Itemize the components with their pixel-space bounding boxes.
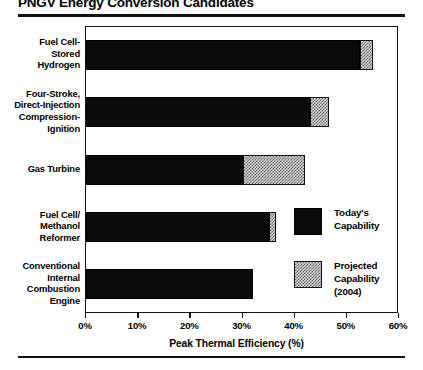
x-axis-tick-label: 50% <box>337 320 356 331</box>
x-axis-tick-mark <box>294 313 295 318</box>
y-axis-category-line: Stored <box>1 48 80 60</box>
title-divider <box>18 14 405 17</box>
y-axis-category-label: Fuel Cell/MethanolReformer <box>1 209 85 244</box>
bar-segment-projected[interactable] <box>360 40 373 70</box>
x-axis-tick-label: 40% <box>284 320 303 331</box>
bar-segment-today[interactable] <box>86 155 243 185</box>
y-axis-category-label: Fuel Cell-StoredHydrogen <box>1 36 85 71</box>
y-axis-labels: Fuel Cell-StoredHydrogenFour-Stroke,Dire… <box>0 26 85 313</box>
y-axis-category-line: Reformer <box>1 232 80 244</box>
bar-row[interactable] <box>86 40 373 70</box>
page-title: PNGV Energy Conversion Candidates <box>18 0 254 10</box>
legend-label: ProjectedCapability(2004) <box>334 259 379 298</box>
y-axis-category-line: Internal <box>1 272 80 284</box>
bar-segment-projected[interactable] <box>269 212 277 242</box>
y-axis-category-line: Fuel Cell/ <box>1 209 80 221</box>
x-axis-tick-mark <box>137 313 138 318</box>
x-axis-tick-label: 60% <box>389 320 408 331</box>
bar-segment-projected[interactable] <box>243 155 306 185</box>
y-axis-category-line: Engine <box>1 295 80 307</box>
bar-segment-today[interactable] <box>86 269 253 299</box>
y-axis-category-label: Gas Turbine <box>1 163 85 175</box>
legend-label-line: Projected <box>334 259 379 272</box>
x-axis-tick-label: 10% <box>128 320 147 331</box>
x-axis-tick-label: 20% <box>180 320 199 331</box>
x-axis-tick-label: 30% <box>232 320 251 331</box>
y-axis-category-line: Fuel Cell- <box>1 36 80 48</box>
y-axis-category-line: Ignition <box>1 123 80 135</box>
x-axis-tick-mark <box>346 313 347 318</box>
x-axis-tick-mark <box>85 313 86 318</box>
x-axis-tick-mark <box>189 313 190 318</box>
bar-row[interactable] <box>86 155 305 185</box>
legend-label-line: Today's <box>334 206 379 219</box>
y-axis-category-line: Methanol <box>1 220 80 232</box>
bar-segment-today[interactable] <box>86 40 360 70</box>
x-axis-tick-mark <box>242 313 243 318</box>
y-axis-category-line: Combustion <box>1 283 80 295</box>
y-axis-category-label: ConventionalInternalCombustionEngine <box>1 260 85 306</box>
legend-label-line: (2004) <box>334 285 379 298</box>
footer-divider <box>18 356 405 358</box>
x-axis-tick-label: 0% <box>78 320 91 331</box>
bar-row[interactable] <box>86 97 329 127</box>
bar-row[interactable] <box>86 269 253 299</box>
bar-segment-today[interactable] <box>86 212 269 242</box>
legend-label-line: Capability <box>334 272 379 285</box>
y-axis-category-line: Gas Turbine <box>1 163 80 175</box>
legend-label: Today'sCapability <box>334 206 379 232</box>
y-axis-category-line: Conventional <box>1 260 80 272</box>
legend-swatch-today <box>294 208 322 235</box>
y-axis-category-line: Compression- <box>1 111 80 123</box>
x-axis-title: Peak Thermal Efficiency (%) <box>0 338 423 349</box>
y-axis-category-line: Four-Stroke, <box>1 88 80 100</box>
x-axis-tick-mark <box>398 313 399 318</box>
bar-segment-today[interactable] <box>86 97 310 127</box>
y-axis-category-line: Hydrogen <box>1 59 80 71</box>
legend-label-line: Capability <box>334 219 379 232</box>
bar-row[interactable] <box>86 212 276 242</box>
bar-segment-projected[interactable] <box>310 97 328 127</box>
legend-swatch-projected <box>294 261 322 288</box>
y-axis-category-label: Four-Stroke,Direct-InjectionCompression-… <box>1 88 85 134</box>
y-axis-category-line: Direct-Injection <box>1 99 80 111</box>
